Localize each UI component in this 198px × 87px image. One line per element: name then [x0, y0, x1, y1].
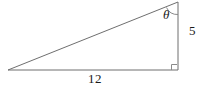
geometry-figure: 12 5 θ: [0, 0, 198, 87]
vertical-length-label: 5: [189, 24, 196, 37]
right-angle-marker: [172, 65, 178, 71]
base-length-label: 12: [88, 72, 102, 85]
triangle-hypotenuse-line: [8, 2, 178, 70]
theta-angle-label: θ: [163, 8, 169, 21]
